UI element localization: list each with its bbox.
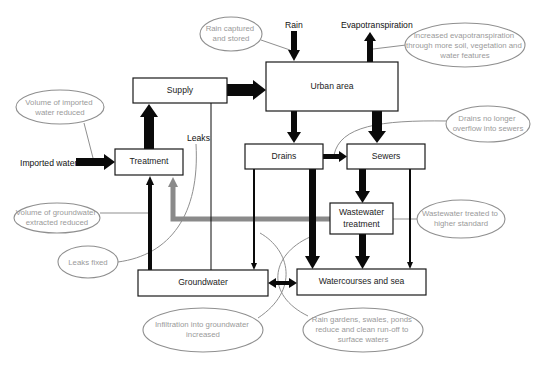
drains-watercourses-shaft	[309, 169, 316, 257]
imported-arrow-head	[104, 154, 115, 170]
sewers-watercourses-head	[407, 262, 413, 269]
supply-urban-shaft	[227, 84, 253, 96]
note-rain-gardens-line-3: surface waters	[338, 335, 389, 344]
evapo-arrow-head	[364, 32, 376, 41]
box-wastewater-treatment: Wastewater treatment	[330, 203, 393, 234]
note-evapo-line-1: Increased evapotranspiration	[414, 31, 515, 40]
note-evapo-line-3: water features	[439, 51, 490, 60]
sewers-wastewater-head	[355, 191, 370, 203]
note-imported-line-2: water reduced	[34, 108, 84, 117]
wastewater-watercourses-shaft	[359, 234, 366, 257]
label-imported-water: Imported water	[20, 158, 77, 168]
note-leaks-fixed-line-1: Leaks fixed	[68, 258, 107, 267]
note-evapotranspiration: Increased evapotranspiration through mor…	[405, 23, 525, 67]
drains-sewers-shaft	[323, 154, 339, 159]
note-infiltration-line-1: Infiltration into groundwater	[155, 320, 249, 329]
note-imported-reduced: Volume of imported water reduced	[16, 90, 104, 124]
note-drains-line-1: Drains no longer	[458, 114, 516, 123]
urban-drains-head	[287, 132, 301, 143]
drains-sewers-head	[339, 151, 347, 162]
box-groundwater: Groundwater	[138, 270, 268, 296]
box-sewers: Sewers	[347, 144, 425, 169]
recycle-arrowhead	[168, 177, 178, 187]
box-urban-area-label: Urban area	[311, 81, 354, 91]
leader-rain-captured	[261, 40, 290, 50]
note-imported-line-1: Volume of imported	[25, 98, 92, 107]
box-wastewater-label-1: Wastewater	[339, 207, 384, 217]
note-rain-gardens-line-1: Rain gardens, swales, ponds	[312, 315, 412, 324]
svg-text:Volume of groundwater ex: Volume of groundwater extracted reduced	[16, 208, 98, 227]
box-drains: Drains	[245, 144, 323, 169]
box-sewers-label: Sewers	[372, 151, 401, 161]
note-rain-gardens: Rain gardens, swales, ponds reduce and c…	[303, 308, 423, 352]
rain-arrow-shaft	[291, 31, 297, 51]
label-evapotranspiration: Evapotranspiration	[341, 20, 413, 30]
note-rain-captured: Rain captured and stored	[200, 17, 262, 51]
groundwater-treatment-shaft	[148, 184, 152, 270]
note-rain-captured-line-2: and stored	[213, 34, 250, 43]
leader-evapotranspiration	[373, 45, 406, 49]
note-groundwater-reduced: Volume of groundwater extracted reduced	[14, 203, 100, 233]
note-infiltration-line-2: increased	[186, 330, 220, 339]
box-wastewater-label-2: treatment	[343, 219, 380, 229]
label-rain: Rain	[285, 20, 303, 30]
leader-imported-reduced	[84, 123, 93, 158]
box-watercourses-label: Watercourses and sea	[319, 276, 405, 286]
recycled-water-flow	[168, 177, 330, 219]
box-treatment: Treatment	[115, 149, 183, 175]
box-drains-label: Drains	[272, 151, 297, 161]
note-infiltration: Infiltration into groundwater increased	[143, 308, 263, 352]
exchange-arrow-right-head	[289, 278, 297, 288]
label-leaks: Leaks	[187, 133, 210, 143]
note-drains-no-overflow: Drains no longer overflow into sewers	[446, 106, 530, 142]
supply-urban-head	[253, 80, 266, 100]
box-watercourses-and-sea: Watercourses and sea	[297, 269, 426, 295]
urban-water-cycle-diagram: Imported water Rain Evapotranspiration L…	[0, 0, 538, 366]
recycle-line	[173, 186, 330, 219]
box-supply: Supply	[133, 78, 227, 103]
box-urban-area: Urban area	[266, 62, 398, 111]
urban-sewers-shaft	[372, 111, 382, 131]
wastewater-watercourses-head	[355, 256, 370, 269]
note-rain-captured-line-1: Rain captured	[206, 24, 255, 33]
note-rain-gardens-line-2: reduce and clean run-off to	[315, 325, 409, 334]
note-wastewater-standard: Wastewater treated to higher standard	[417, 200, 505, 238]
imported-arrow-shaft	[76, 158, 104, 166]
note-drains-line-2: overflow into sewers	[453, 124, 524, 133]
groundwater-treatment-head	[146, 176, 154, 185]
urban-drains-shaft	[291, 111, 297, 133]
svg-text:Volume of imported water: Volume of imported water reduced	[25, 98, 94, 117]
treatment-supply-head	[140, 104, 158, 117]
note-groundwater-line-1: Volume of groundwater	[16, 208, 97, 217]
box-supply-label: Supply	[167, 85, 194, 95]
box-treatment-label: Treatment	[130, 156, 169, 166]
svg-text:Rain captured and stored: Rain captured and stored	[206, 24, 257, 43]
treatment-supply-shaft	[144, 117, 154, 149]
note-leaks-fixed: Leaks fixed	[58, 246, 118, 278]
note-wastewater-line-2: higher standard	[434, 219, 488, 228]
sewers-wastewater-shaft	[359, 169, 366, 192]
exchange-arrow-shaft	[275, 281, 290, 285]
note-wastewater-line-1: Wastewater treated to	[422, 209, 499, 218]
exchange-arrow-left-head	[268, 278, 276, 288]
drains-watercourses-head	[305, 256, 320, 269]
urban-sewers-head	[368, 131, 386, 143]
note-evapo-line-2: through more soil, vegetation and	[406, 41, 522, 50]
rain-arrow-head	[288, 50, 300, 61]
svg-text:Drains no longer overflo: Drains no longer overflow into sewers	[453, 114, 524, 133]
drains-groundwater-head	[251, 263, 257, 270]
evapo-arrow-shaft	[367, 40, 373, 62]
note-groundwater-line-2: extracted reduced	[26, 218, 88, 227]
box-groundwater-label: Groundwater	[178, 277, 228, 287]
